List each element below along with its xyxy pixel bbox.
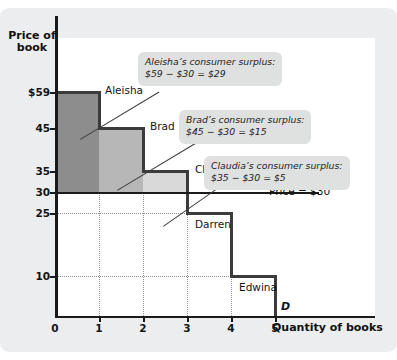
- ytick-mark-30: [50, 192, 56, 194]
- xtick-label-0: 0: [45, 322, 65, 334]
- ytick-label-59: $59: [10, 86, 50, 98]
- xtick-label-5: 5: [265, 322, 285, 334]
- surplus-rect-aleisha: [55, 93, 99, 193]
- xtick-label-3: 3: [177, 322, 197, 334]
- y-axis-title: Price of book: [8, 30, 56, 55]
- xtick-label-2: 2: [133, 322, 153, 334]
- step-label-aleisha: Aleisha: [105, 84, 143, 96]
- step-top-edwina: [230, 275, 277, 278]
- ytick-mark-25: [50, 213, 56, 215]
- step-drop-aleisha-brad: [98, 91, 101, 130]
- y-axis-line: [55, 16, 58, 318]
- ytick-mark-35: [50, 171, 56, 173]
- xtick-label-4: 4: [221, 322, 241, 334]
- ytick-mark-45: [50, 128, 56, 130]
- x-axis-line: [55, 316, 375, 318]
- y-axis-title-line2: book: [8, 42, 56, 54]
- step-label-darren: Darren: [195, 218, 231, 230]
- ytick-mark-10: [50, 276, 56, 278]
- ytick-label-45: 45: [10, 122, 50, 134]
- surplus-rect-brad: [99, 128, 143, 193]
- callout-claudia: Claudia’s consumer surplus: $35 − $30 = …: [204, 156, 350, 190]
- callout-aleisha-line1: Aleisha’s consumer surplus:: [145, 56, 275, 68]
- step-top-aleisha: [55, 91, 101, 94]
- step-top-darren: [186, 212, 233, 215]
- callout-claudia-line2: $35 − $30 = $5: [211, 172, 343, 184]
- step-drop-brad-claudia: [142, 127, 145, 173]
- callout-brad-line1: Brad’s consumer surplus:: [186, 114, 304, 126]
- callout-aleisha: Aleisha’s consumer surplus: $59 − $30 = …: [138, 52, 282, 86]
- callout-claudia-line1: Claudia’s consumer surplus:: [211, 160, 343, 172]
- callout-brad-line2: $45 − $30 = $15: [186, 126, 304, 138]
- callout-aleisha-line2: $59 − $30 = $29: [145, 68, 275, 80]
- demand-curve-label: D: [281, 300, 290, 313]
- ytick-mark-59: [50, 92, 56, 94]
- x-axis-title: Quantity of books: [272, 322, 383, 334]
- surplus-rect-claudia: [143, 171, 187, 193]
- callout-brad: Brad’s consumer surplus: $45 − $30 = $15: [179, 110, 311, 144]
- plot-area: Price = $30 D Aleisha Brad Claudia Darre…: [55, 38, 375, 318]
- ytick-label-35: 35: [10, 165, 50, 177]
- ytick-label-25: 25: [10, 207, 50, 219]
- ytick-label-30: 30: [10, 186, 50, 198]
- ytick-label-10: 10: [10, 270, 50, 282]
- step-label-brad: Brad: [150, 120, 175, 132]
- step-label-edwina: Edwina: [239, 281, 277, 293]
- xtick-label-1: 1: [89, 322, 109, 334]
- step-top-brad: [98, 127, 145, 130]
- figure-panel: Price of book Quantity of books: [0, 8, 397, 352]
